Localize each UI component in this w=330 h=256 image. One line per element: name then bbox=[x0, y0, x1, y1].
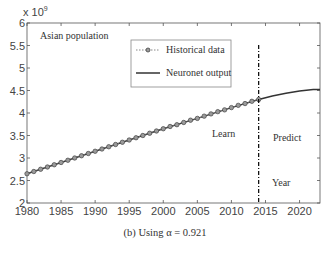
predict-label: Predict bbox=[273, 132, 302, 143]
historical-data-point bbox=[195, 116, 199, 120]
historical-data-point bbox=[222, 108, 226, 112]
historical-data-point bbox=[154, 129, 158, 133]
y-tick-label: 3 bbox=[19, 152, 25, 164]
historical-data-point bbox=[188, 118, 192, 122]
figure-caption: (b) Using α = 0.921 bbox=[0, 227, 330, 238]
historical-data-point bbox=[66, 158, 70, 162]
historical-data-point bbox=[93, 149, 97, 153]
historical-data-point bbox=[134, 136, 138, 140]
historical-data-point bbox=[202, 114, 206, 118]
y-tick-label: 6 bbox=[19, 17, 25, 29]
historical-data-point bbox=[32, 169, 36, 173]
legend-historical-marker-icon bbox=[146, 48, 150, 52]
legend-neuronet-label: Neuronet output bbox=[166, 67, 231, 78]
historical-data-point bbox=[161, 127, 165, 131]
y-tick-label: 5 bbox=[19, 62, 25, 74]
chart-title: Asian population bbox=[40, 30, 109, 41]
x-tick-label: 2000 bbox=[151, 205, 175, 217]
historical-data-point bbox=[250, 99, 254, 103]
historical-data-point bbox=[147, 131, 151, 135]
x-tick-label: 2020 bbox=[287, 205, 311, 217]
y-tick-label: 2.5 bbox=[10, 175, 25, 187]
population-chart: 19801985199019952000200520102015202022.5… bbox=[0, 0, 330, 225]
y-tick-label: 4.5 bbox=[10, 85, 25, 97]
y-tick-label: 4 bbox=[19, 107, 25, 119]
historical-data-point bbox=[72, 156, 76, 160]
y-tick-label: 3.5 bbox=[10, 130, 25, 142]
historical-data-point bbox=[236, 103, 240, 107]
year-label: Year bbox=[272, 177, 291, 188]
historical-data-point bbox=[209, 112, 213, 116]
legend: Historical data Neuronet output bbox=[131, 40, 231, 87]
historical-data-point bbox=[168, 124, 172, 128]
y-tick-label: 5.5 bbox=[10, 40, 25, 52]
historical-data-point bbox=[141, 133, 145, 137]
y-multiplier: x 109 bbox=[23, 5, 48, 18]
historical-data-point bbox=[25, 172, 29, 176]
x-tick-label: 1990 bbox=[83, 205, 107, 217]
historical-data-point bbox=[127, 138, 131, 142]
legend-historical-label: Historical data bbox=[166, 44, 225, 55]
historical-data-point bbox=[229, 105, 233, 109]
y-tick-label: 2 bbox=[19, 197, 25, 209]
historical-data-point bbox=[45, 165, 49, 169]
x-tick-label: 2015 bbox=[253, 205, 277, 217]
historical-data-point bbox=[38, 167, 42, 171]
x-tick-label: 2010 bbox=[219, 205, 243, 217]
historical-data-point bbox=[107, 145, 111, 149]
x-tick-label: 1995 bbox=[117, 205, 141, 217]
x-tick-label: 2005 bbox=[185, 205, 209, 217]
historical-data-point bbox=[59, 160, 63, 164]
historical-data-point bbox=[175, 123, 179, 127]
historical-data-point bbox=[182, 120, 186, 124]
historical-data-point bbox=[86, 151, 90, 155]
x-tick-label: 1985 bbox=[49, 205, 73, 217]
historical-data-point bbox=[216, 109, 220, 113]
historical-data-point bbox=[100, 147, 104, 151]
learn-label: Learn bbox=[212, 128, 235, 139]
historical-data-point bbox=[113, 142, 117, 146]
historical-data-point bbox=[120, 140, 124, 144]
historical-data-point bbox=[243, 101, 247, 105]
historical-data-point bbox=[52, 163, 56, 167]
historical-data-point bbox=[79, 154, 83, 158]
